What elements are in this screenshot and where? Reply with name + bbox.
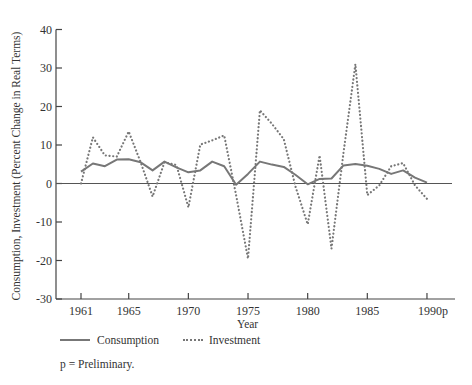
x-tick-label: 1961: [69, 304, 93, 318]
x-tick-label: 1985: [355, 304, 379, 318]
x-tick-label: 1990p: [418, 304, 448, 318]
y-tick-label: 30: [40, 61, 52, 75]
y-tick-label: -30: [36, 292, 52, 306]
footnote: p = Preliminary.: [60, 358, 134, 370]
x-tick-label: 1980: [296, 304, 320, 318]
legend-dotted-line-icon: [183, 339, 203, 341]
legend-investment: Investment: [209, 334, 260, 346]
x-tick-label: 1970: [176, 304, 200, 318]
legend-solid-line-icon: [60, 339, 90, 341]
y-tick-label: 10: [40, 138, 52, 152]
y-tick-label: 0: [46, 177, 52, 191]
y-tick-label: -20: [36, 254, 52, 268]
y-axis-label: Consumption, Investment (Percent Change …: [10, 31, 22, 301]
x-tick-label: 1965: [117, 304, 141, 318]
y-tick-label: 20: [40, 100, 52, 114]
x-axis-label: Year: [237, 318, 258, 330]
y-tick-label: -10: [36, 215, 52, 229]
line-chart: 403020100-10-20-301961196519701975198019…: [0, 0, 472, 385]
y-tick-label: 40: [40, 23, 52, 37]
series-investment-line: [81, 64, 427, 259]
legend: Consumption Investment: [60, 334, 260, 346]
legend-consumption: Consumption: [97, 334, 159, 346]
x-tick-label: 1975: [236, 304, 260, 318]
